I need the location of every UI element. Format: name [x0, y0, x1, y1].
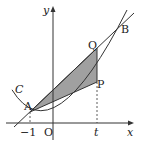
point-b-label: B [121, 23, 129, 36]
diagram-canvas: y x O C A B P Q −1 t [0, 0, 147, 142]
y-axis-label: y [42, 4, 50, 17]
x-axis-label: x [127, 126, 134, 139]
tick-neg-one: −1 [20, 126, 36, 139]
curve-c [12, 10, 127, 111]
tick-t: t [94, 126, 99, 139]
x-axis-arrow-icon [128, 121, 134, 126]
y-axis-arrow-icon [51, 6, 56, 12]
origin-label: O [44, 126, 53, 139]
point-a-label: A [23, 100, 33, 113]
point-p-label: P [97, 78, 105, 91]
line-ab [14, 13, 134, 127]
point-q-label: Q [88, 39, 97, 52]
curve-c-label: C [15, 83, 24, 96]
